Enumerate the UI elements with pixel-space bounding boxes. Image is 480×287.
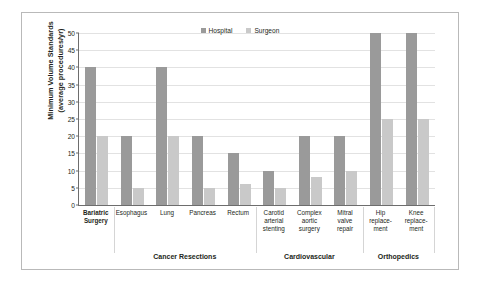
category-label-line: arterial: [257, 217, 291, 225]
y-axis-title-line-1: Minimum Volume Standards: [46, 0, 56, 156]
group-header: Cardiovascular: [256, 253, 363, 260]
bar-hospital: [406, 33, 417, 205]
group-separator: [114, 207, 115, 253]
legend-swatch-hospital: [201, 28, 206, 33]
category-label-line: Carotid: [257, 209, 291, 217]
group-separator: [434, 207, 435, 253]
bar-group: [221, 33, 257, 205]
y-tick-label: 35: [68, 81, 75, 88]
bar-surgeon: [346, 171, 357, 205]
bar-group: [328, 33, 364, 205]
category-label: Rectum: [220, 209, 256, 234]
bar-surgeon: [382, 119, 393, 205]
category-label-line: aortic: [293, 217, 327, 225]
chart-legend: HospitalSurgeon: [22, 27, 458, 34]
y-tick-label: 5: [71, 184, 75, 191]
category-label-line: repair: [328, 225, 362, 233]
plot-area: 05101520253035404550: [78, 33, 435, 206]
y-tick-label: 45: [68, 47, 75, 54]
bars-layer: [79, 33, 435, 205]
bar-surgeon: [168, 136, 179, 205]
category-label: Esophagus: [114, 209, 150, 234]
bar-group: [399, 33, 435, 205]
chart-figure-frame: Minimum Volume Standards (average proced…: [21, 12, 459, 270]
category-label-line: Bariatric: [79, 209, 113, 217]
category-label: Hipreplace-ment: [363, 209, 399, 234]
category-label-line: Complex: [293, 209, 327, 217]
category-label: Complexaorticsurgery: [292, 209, 328, 234]
category-label-line: Knee: [399, 209, 433, 217]
bar-hospital: [299, 136, 310, 205]
bar-surgeon: [418, 119, 429, 205]
bar-hospital: [192, 136, 203, 205]
category-label-line: surgery: [293, 225, 327, 233]
category-label-line: stenting: [257, 225, 291, 233]
category-label: Kneereplace-ment: [398, 209, 434, 234]
bar-hospital: [334, 136, 345, 205]
bar-hospital: [121, 136, 132, 205]
category-label: Mitralvalverepair: [327, 209, 363, 234]
bar-group: [79, 33, 115, 205]
y-tick-label: 25: [68, 116, 75, 123]
category-label-line: ment: [364, 225, 398, 233]
category-label-line: Pancreas: [186, 209, 220, 217]
y-tick-label: 15: [68, 150, 75, 157]
bar-hospital: [228, 153, 239, 205]
y-tick-label: 40: [68, 64, 75, 71]
legend-label-surgeon: Surgeon: [254, 27, 279, 34]
bar-surgeon: [311, 177, 322, 205]
bar-group: [364, 33, 400, 205]
y-tick-label: 10: [68, 167, 75, 174]
y-tick-label: 20: [68, 133, 75, 140]
group-separator: [363, 207, 364, 253]
bar-group: [115, 33, 151, 205]
bar-hospital: [370, 33, 381, 205]
bar-group: [293, 33, 329, 205]
bar-hospital: [263, 171, 274, 205]
y-axis-title-line-2: (average procedures/yr): [55, 0, 65, 156]
bar-hospital: [156, 67, 167, 205]
bar-surgeon: [275, 188, 286, 205]
legend-entry-surgeon: Surgeon: [246, 27, 279, 34]
legend-swatch-surgeon: [246, 28, 251, 33]
category-label-line: Hip: [364, 209, 398, 217]
bar-group: [186, 33, 222, 205]
bar-surgeon: [97, 136, 108, 205]
bar-hospital: [85, 67, 96, 205]
bar-surgeon: [204, 188, 215, 205]
bar-surgeon: [240, 184, 251, 205]
category-label-line: Surgery: [79, 217, 113, 225]
category-label-line: replace-: [364, 217, 398, 225]
y-axis-title: Minimum Volume Standards (average proced…: [46, 0, 65, 156]
y-tick-label: 30: [68, 98, 75, 105]
category-label-line: ment: [399, 225, 433, 233]
category-label: BariatricSurgery: [78, 209, 114, 234]
legend-entry-hospital: Hospital: [201, 27, 233, 34]
legend-label-hospital: Hospital: [209, 27, 233, 34]
category-label-line: replace-: [399, 217, 433, 225]
category-label-line: valve: [328, 217, 362, 225]
bar-surgeon: [133, 188, 144, 205]
category-label: Carotidarterialstenting: [256, 209, 292, 234]
category-label: Pancreas: [185, 209, 221, 234]
group-header: Cancer Resections: [114, 253, 256, 260]
category-label: Lung: [149, 209, 185, 234]
bar-group: [150, 33, 186, 205]
group-separator: [256, 207, 257, 253]
group-header: Orthopedics: [363, 253, 434, 260]
category-label-line: Mitral: [328, 209, 362, 217]
category-label-line: Lung: [150, 209, 184, 217]
bar-group: [257, 33, 293, 205]
category-label-line: Rectum: [221, 209, 255, 217]
category-label-line: Esophagus: [115, 209, 149, 217]
y-tick-label: 0: [71, 202, 75, 209]
